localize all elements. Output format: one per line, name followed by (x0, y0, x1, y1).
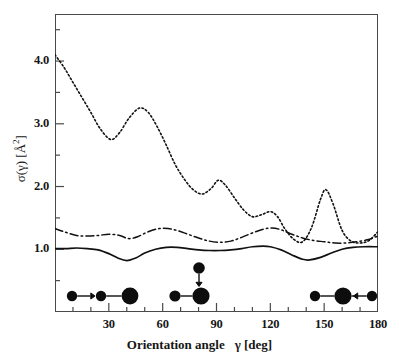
molecule-atom-small-mid (169, 290, 180, 301)
plot-area (55, 14, 378, 312)
y-tick-label: 4.0 (13, 53, 49, 68)
molecule-atom-small-right (310, 291, 320, 301)
approach-arrow-head-left (91, 293, 95, 299)
x-axis-title-main: Orientation angle (127, 337, 225, 352)
x-tick-label: 30 (89, 317, 129, 332)
atom-projectile-left (67, 291, 77, 301)
x-tick-label: 120 (250, 317, 290, 332)
molecule-atom-large-left (122, 288, 139, 305)
y-tick-label: 1.0 (13, 241, 49, 256)
y-axis-title: σ(γ) [Å2] (11, 99, 28, 219)
approach-arrow-head-right (354, 293, 358, 299)
y-axis-title-text: σ(γ) [Å (13, 144, 28, 182)
approach-arrow-head-mid (196, 282, 202, 286)
data-curves (55, 55, 378, 261)
molecule-atom-large-mid (192, 287, 209, 304)
atom-projectile-mid (193, 262, 205, 274)
x-tick-label: 90 (197, 317, 237, 332)
molecule-atom-small-left (96, 291, 106, 301)
y-axis-title-tail: ] (13, 135, 28, 139)
figure-container: 1.02.03.04.0 306090120150180 σ(γ) [Å2] O… (0, 0, 399, 363)
x-tick-label: 60 (143, 317, 183, 332)
y-axis-title-exponent: 2 (11, 139, 21, 144)
molecule-atom-large-right (334, 287, 351, 304)
curve-dotted (55, 55, 378, 243)
x-axis-title: Orientation angleγ [deg] (0, 337, 399, 353)
geometry-annotations (67, 262, 377, 304)
x-axis-title-symbol: γ [deg] (235, 337, 273, 352)
curve-dash-dot (55, 228, 378, 243)
atom-projectile-right (367, 291, 377, 301)
x-tick-label: 150 (304, 317, 344, 332)
curve-solid (55, 246, 378, 260)
x-tick-label: 180 (358, 317, 398, 332)
axis-ticks (55, 30, 378, 312)
